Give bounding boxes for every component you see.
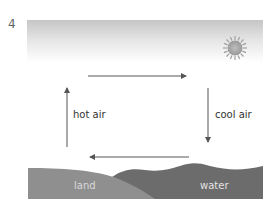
hot-air-label: hot air [73,109,106,120]
sea-breeze-diagram [0,0,274,207]
water-label: water [200,180,229,191]
sun-icon [223,36,247,60]
land-label: land [74,180,96,191]
cool-air-label: cool air [215,109,252,120]
